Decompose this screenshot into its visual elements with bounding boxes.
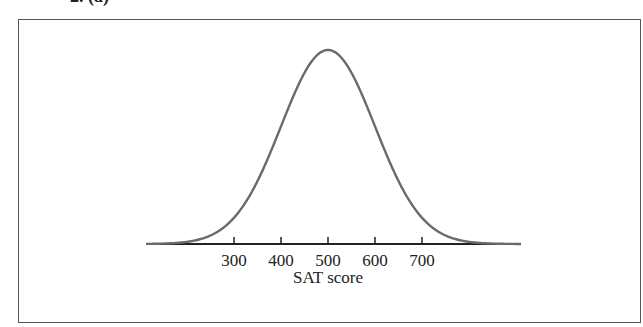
x-tick-label: 600 bbox=[362, 251, 388, 270]
normal-curve-chart: 300400500600700 SAT score bbox=[0, 0, 643, 327]
x-tick-label: 700 bbox=[409, 251, 435, 270]
x-tick-label: 300 bbox=[221, 251, 247, 270]
density-curve bbox=[146, 50, 521, 244]
x-axis-ticks: 300400500600700 bbox=[221, 237, 435, 270]
x-axis-label: SAT score bbox=[293, 268, 363, 287]
x-tick-label: 400 bbox=[268, 251, 294, 270]
